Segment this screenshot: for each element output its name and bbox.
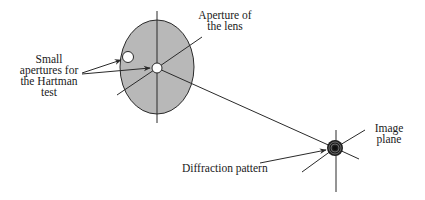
label-line: plane — [368, 134, 410, 145]
label-lens-aperture: Aperture of the lens — [193, 10, 257, 32]
ray-to-image — [157, 68, 335, 148]
label-diffraction-pattern: Diffraction pattern — [182, 163, 268, 174]
label-line: the lens — [193, 21, 257, 32]
center-aperture-hole — [152, 63, 162, 73]
label-line: test — [12, 87, 86, 98]
label-line: Diffraction pattern — [182, 163, 268, 174]
label-image-plane: Image plane — [368, 123, 410, 145]
diffraction-pattern — [327, 140, 343, 156]
arrow-to-diffraction — [260, 150, 326, 163]
small-aperture-hole — [123, 52, 134, 63]
label-small-apertures: Small apertures for the Hartman test — [12, 54, 86, 98]
